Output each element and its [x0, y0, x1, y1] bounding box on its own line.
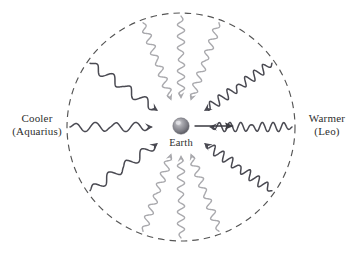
wave-lower-right-diagonal: [206, 144, 272, 191]
radiation-wave-right-horizontal: [209, 122, 292, 131]
radiation-wave-lower-right-diagonal: [204, 143, 272, 191]
label-warmer-line2: (Leo): [302, 125, 352, 138]
wave-bottom-center: [177, 157, 184, 238]
label-cooler-aquarius: Cooler (Aquarius): [6, 112, 68, 138]
wave-upper-right-diagonal: [206, 63, 272, 110]
label-warmer-leo: Warmer (Leo): [302, 112, 352, 138]
label-cooler-line1: Cooler: [21, 112, 52, 124]
wave-right-horizontal: [211, 122, 292, 131]
radiation-wave-upper-right-diagonal: [204, 63, 272, 111]
radiation-wave-lower-left-diagonal: [90, 143, 158, 191]
radiation-wave-bottom-left: [142, 153, 172, 231]
arrowhead-top-center: [178, 92, 185, 99]
radiation-wave-top-right: [190, 23, 220, 101]
wave-upper-left-diagonal: [90, 63, 156, 109]
radiation-wave-upper-left-diagonal: [90, 63, 158, 111]
radiation-wave-left-horizontal: [70, 122, 153, 131]
wave-left-horizontal: [70, 122, 151, 131]
arrowhead-upper-right-diagonal: [204, 103, 213, 111]
radiation-wave-bottom-center: [177, 155, 184, 238]
wave-top-center: [177, 16, 184, 97]
radiation-wave-top-center: [177, 16, 184, 99]
wave-lower-left-diagonal: [90, 144, 156, 190]
cmb-dipole-diagram: Cooler (Aquarius) Warmer (Leo) Earth: [0, 0, 353, 255]
wave-bottom-right: [191, 155, 220, 231]
arrowhead-left-horizontal: [145, 123, 153, 131]
radiation-wave-top-left: [143, 23, 173, 101]
label-earth: Earth: [151, 137, 211, 149]
radiation-wave-bottom-right: [190, 153, 220, 231]
label-cooler-line2: (Aquarius): [6, 125, 68, 138]
label-warmer-line1: Warmer: [309, 112, 345, 124]
earth-sphere: [173, 118, 189, 134]
arrowhead-bottom-center: [178, 155, 185, 162]
wave-top-right: [191, 23, 220, 99]
wave-top-left: [143, 23, 172, 99]
wave-bottom-left: [142, 155, 171, 231]
